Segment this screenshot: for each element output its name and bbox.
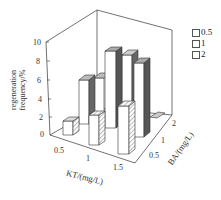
- chart-canvas: 0 2 4 6 8 10 regeneration frequency/%: [0, 0, 221, 200]
- z-axis-tick-labels: 0 2 4 6 8 10: [33, 38, 44, 139]
- legend-label: 1: [201, 38, 206, 49]
- legend-swatch-icon: [192, 29, 200, 37]
- z-label-line2: frequency/%: [18, 69, 27, 110]
- legend-swatch-icon: [192, 51, 200, 59]
- legend-item-0.5: 0.5: [192, 27, 212, 38]
- x-tick-0.5: 0.5: [54, 146, 64, 155]
- z-tick-10: 10: [33, 38, 41, 47]
- x-tick-1: 1: [86, 154, 90, 163]
- x-tick-1.5: 1.5: [113, 163, 123, 172]
- x-axis-label: KT/(mg/L): [65, 168, 104, 187]
- z-tick-2: 2: [39, 113, 43, 122]
- legend: 0.5 1 2: [192, 27, 212, 60]
- z-tick-4: 4: [38, 95, 42, 104]
- z-label-line1: regeneration: [9, 70, 18, 110]
- y-tick-2: 2: [172, 119, 176, 128]
- z-axis-label: regeneration frequency/%: [9, 69, 27, 110]
- legend-label: 2: [201, 49, 206, 60]
- legend-item-2: 2: [192, 49, 212, 60]
- z-tick-8: 8: [36, 57, 40, 66]
- legend-label: 0.5: [201, 27, 212, 38]
- legend-swatch-icon: [192, 40, 200, 48]
- z-tick-0: 0: [40, 130, 44, 139]
- y-axis-label: BA/(mg/L): [165, 130, 195, 167]
- z-tick-6: 6: [37, 76, 41, 85]
- x-axis-tick-labels: 0.5 1 1.5: [54, 146, 123, 172]
- legend-item-1: 1: [192, 38, 212, 49]
- y-tick-1: 1: [161, 136, 165, 145]
- y-tick-0.5: 0.5: [149, 151, 159, 160]
